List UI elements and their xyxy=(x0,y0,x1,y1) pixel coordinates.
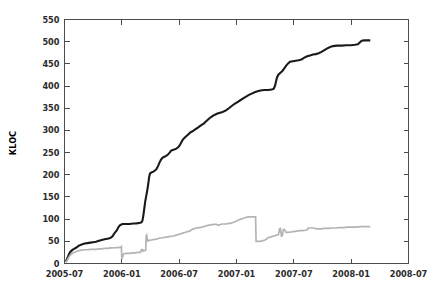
x-tick-label: 2007-01 xyxy=(218,269,256,279)
y-tick-label: 100 xyxy=(42,214,59,224)
y-tick-label: 450 xyxy=(42,59,59,69)
y-tick-label: 300 xyxy=(42,125,59,135)
x-tick-label: 2008-07 xyxy=(390,269,428,279)
x-tick-label: 2006-07 xyxy=(160,269,198,279)
y-tick-label: 0 xyxy=(54,259,60,269)
y-tick-label: 50 xyxy=(48,236,60,246)
x-tick-label: 2005-07 xyxy=(46,269,84,279)
y-tick-label: 500 xyxy=(42,37,59,47)
y-tick-label: 150 xyxy=(42,192,59,202)
y-tick-label: 200 xyxy=(42,170,59,180)
y-axis-ticks: 050100150200250300350400450500550 xyxy=(42,15,408,269)
x-tick-label: 2008-01 xyxy=(332,269,370,279)
y-tick-label: 250 xyxy=(42,148,59,158)
kloc-line-chart: 050100150200250300350400450500550 2005-0… xyxy=(0,0,437,295)
data-series-group xyxy=(66,40,370,262)
series-line-active-lines xyxy=(66,217,370,263)
chart-container: 050100150200250300350400450500550 2005-0… xyxy=(0,0,437,295)
y-tick-label: 350 xyxy=(42,103,59,113)
y-tick-label: 400 xyxy=(42,81,59,91)
x-tick-label: 2007-07 xyxy=(275,269,313,279)
y-axis-title: KLOC xyxy=(8,131,18,155)
y-tick-label: 550 xyxy=(42,15,59,25)
x-tick-label: 2006-01 xyxy=(103,269,141,279)
